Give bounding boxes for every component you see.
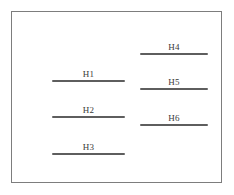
segment-h1-label: H1 <box>52 69 125 79</box>
segment-h4-rule <box>140 53 208 55</box>
segment-h1-rule <box>52 80 125 82</box>
segment-h4-label: H4 <box>140 42 208 52</box>
segment-h1: H1 <box>52 66 125 82</box>
segment-h2: H2 <box>52 102 125 118</box>
segment-h6-label: H6 <box>140 113 208 123</box>
segment-h5-rule <box>140 88 208 90</box>
figure-canvas: H1 H2 H3 H4 H5 H6 <box>0 0 234 195</box>
segment-h3-label: H3 <box>52 142 125 152</box>
segment-h3-rule <box>52 153 125 155</box>
segment-h2-label: H2 <box>52 105 125 115</box>
figure-frame-border: H1 H2 H3 H4 H5 H6 <box>11 11 222 183</box>
segment-h6-rule <box>140 124 208 126</box>
segment-h4: H4 <box>140 39 208 55</box>
segment-h2-rule <box>52 116 125 118</box>
segment-h5: H5 <box>140 74 208 90</box>
segment-h3: H3 <box>52 139 125 155</box>
segment-h6: H6 <box>140 110 208 126</box>
segment-h5-label: H5 <box>140 77 208 87</box>
